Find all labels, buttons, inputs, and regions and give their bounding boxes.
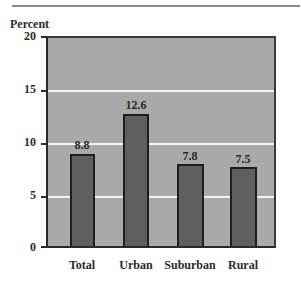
bar-value-suburban: 7.8 — [170, 149, 210, 164]
y-tick-15 — [41, 90, 47, 92]
y-tick-0 — [41, 246, 47, 248]
x-label-urban: Urban — [106, 258, 166, 273]
bar-value-urban: 12.6 — [116, 98, 156, 113]
y-tick-label-0: 0 — [6, 240, 36, 255]
bar-urban — [123, 114, 149, 246]
y-tick-label-5: 5 — [6, 188, 36, 203]
plot-area: 8.8 12.6 7.8 7.5 — [46, 36, 276, 248]
y-tick-5 — [41, 196, 47, 198]
x-label-rural: Rural — [213, 258, 273, 273]
x-label-total: Total — [52, 258, 112, 273]
y-tick-label-10: 10 — [6, 135, 36, 150]
bar-value-rural: 7.5 — [223, 152, 263, 167]
bar-suburban — [177, 164, 204, 246]
y-tick-label-15: 15 — [6, 82, 36, 97]
y-tick-10 — [41, 143, 47, 145]
y-tick-label-20: 20 — [6, 29, 36, 44]
x-label-suburban: Suburban — [160, 258, 220, 273]
y-tick-20 — [41, 36, 47, 38]
bar-value-total: 8.8 — [62, 138, 102, 153]
top-rule — [12, 5, 300, 7]
bar-total — [70, 154, 95, 246]
gridline-15 — [48, 90, 274, 92]
bar-rural — [230, 167, 257, 246]
